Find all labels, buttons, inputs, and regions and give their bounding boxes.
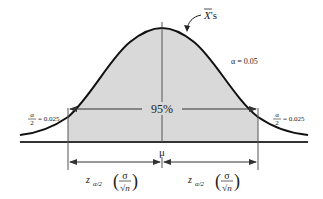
svg-text:α/2: α/2 [195, 180, 205, 188]
center-percent-label: 95% [151, 102, 173, 116]
svg-text:α: α [275, 111, 279, 119]
svg-text:): ) [132, 171, 138, 192]
right-margin-of-error-label: z α/2 ( σ √n ) [187, 170, 240, 193]
svg-text:= 0.025: = 0.025 [38, 115, 60, 123]
svg-text:(: ( [113, 171, 119, 192]
curve-label: X's [203, 9, 217, 21]
arrowhead-right-icon [153, 159, 161, 165]
alpha-label: α = 0.05 [231, 57, 258, 66]
left-margin-of-error-label: z α/2 ( σ √n ) [85, 170, 138, 193]
svg-text:): ) [234, 171, 240, 192]
svg-text:z: z [187, 174, 192, 185]
svg-text:2: 2 [30, 119, 34, 127]
arrowhead-right-icon [249, 159, 257, 165]
svg-text:z: z [85, 174, 90, 185]
mean-label: μ [159, 146, 165, 158]
arrowhead-right-icon [249, 106, 257, 112]
arrowhead-left-icon [163, 159, 171, 165]
arrowhead-left-icon [69, 159, 77, 165]
svg-text:σ: σ [122, 170, 128, 181]
svg-text:2: 2 [275, 119, 279, 127]
confidence-interval-diagram: 95% μ X's α = 0.05 α 2 = 0.025 α 2 [0, 0, 323, 199]
right-tail-label: α 2 = 0.025 [273, 111, 305, 127]
svg-text:α/2: α/2 [93, 180, 103, 188]
svg-text:α: α [30, 111, 34, 119]
svg-text:√n: √n [120, 183, 130, 193]
svg-text:√n: √n [222, 183, 232, 193]
arrowhead-down-icon [184, 25, 190, 32]
svg-text:= 0.025: = 0.025 [283, 115, 305, 123]
svg-text:σ: σ [224, 170, 230, 181]
svg-text:(: ( [215, 171, 221, 192]
